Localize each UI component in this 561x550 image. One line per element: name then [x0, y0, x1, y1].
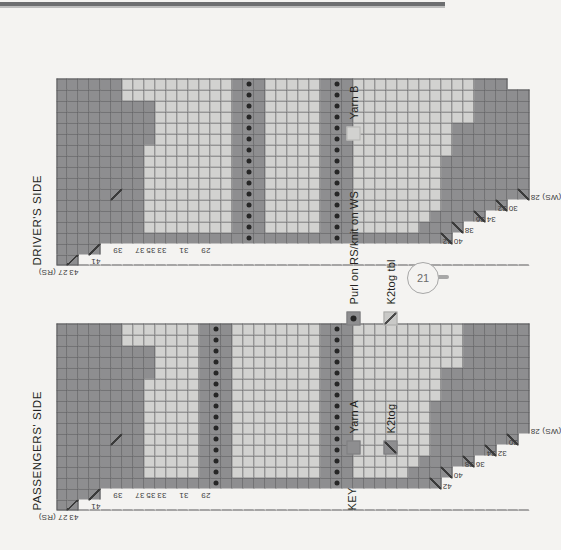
chart-cell: [276, 433, 287, 444]
chart-cell: [111, 133, 122, 144]
chart-cell: [254, 177, 265, 188]
chart-row: [386, 78, 397, 265]
chart-cell: [243, 433, 254, 444]
chart-cell: [276, 488, 287, 499]
chart-cell: [496, 389, 507, 400]
chart-cell: [56, 232, 67, 243]
chart-cell: [243, 78, 254, 89]
chart-cell: [56, 378, 67, 389]
chart-cell: [177, 323, 188, 334]
chart-cell: [419, 499, 430, 510]
chart-cell: [276, 144, 287, 155]
chart-cell: [298, 466, 309, 477]
chart-cell: [485, 499, 496, 510]
chart-cell: [364, 166, 375, 177]
chart-cell: [265, 334, 276, 345]
chart-cell: [287, 334, 298, 345]
chart-cell: [276, 400, 287, 411]
chart-cell: [133, 444, 144, 455]
chart-cell: [166, 389, 177, 400]
chart-cell: [243, 188, 254, 199]
chart-cell: [166, 433, 177, 444]
chart-cell: [331, 433, 342, 444]
chart-cell: [364, 221, 375, 232]
chart-cell: [331, 389, 342, 400]
chart-cell: [364, 488, 375, 499]
chart-cell: [331, 455, 342, 466]
chart-cell: [320, 111, 331, 122]
chart-cell: [144, 444, 155, 455]
chart-cell: [463, 378, 474, 389]
row-number-label: 39: [113, 490, 122, 499]
chart-cell: [452, 144, 463, 155]
chart-cell: [199, 100, 210, 111]
chart-cell: [287, 477, 298, 488]
chart-cell: [122, 254, 133, 265]
page-number-badge: 21: [407, 262, 437, 292]
chart-cell: [518, 356, 529, 367]
chart-cell: [144, 422, 155, 433]
chart-cell: [67, 199, 78, 210]
chart-cell: [166, 323, 177, 334]
chart-cell: [89, 444, 100, 455]
chart-cell: [331, 111, 342, 122]
chart-cell: [254, 100, 265, 111]
chart-cell: [463, 400, 474, 411]
chart-cell: [89, 188, 100, 199]
chart-cell: [166, 155, 177, 166]
chart-cell: [386, 199, 397, 210]
chart-cell: [331, 466, 342, 477]
chart-cell: [397, 144, 408, 155]
chart-cell: [265, 400, 276, 411]
chart-cell: [419, 422, 430, 433]
row-number-label: 43: [69, 512, 78, 521]
chart-cell: [265, 466, 276, 477]
chart-cell: [265, 433, 276, 444]
chart-cell: [188, 400, 199, 411]
chart-cell: [408, 243, 419, 254]
chart-cell: [441, 177, 452, 188]
chart-cell: [177, 367, 188, 378]
chart-cell: [441, 444, 452, 455]
chart-cell: [452, 323, 463, 334]
chart-cell: [254, 345, 265, 356]
chart-row: [364, 78, 375, 265]
row-number-label: 35: [146, 490, 155, 499]
chart-cell: [133, 254, 144, 265]
chart-cell: [56, 243, 67, 254]
chart-cell: [364, 177, 375, 188]
chart-cell: [320, 166, 331, 177]
chart-row: [144, 78, 155, 265]
chart-cell: [463, 254, 474, 265]
chart-cell: [254, 155, 265, 166]
chart-row: [298, 323, 309, 510]
chart-cell: [100, 89, 111, 100]
chart-cell: [309, 477, 320, 488]
chart-cell: [463, 89, 474, 100]
chart-cell: [331, 477, 342, 488]
chart-cell: [89, 221, 100, 232]
chart-cell: [100, 466, 111, 477]
chart-cell: [89, 78, 100, 89]
chart-cell: [188, 444, 199, 455]
chart-cell: [507, 477, 518, 488]
chart-cell: [254, 122, 265, 133]
chart-cell: [199, 477, 210, 488]
chart-cell: [199, 378, 210, 389]
chart-cell: [386, 389, 397, 400]
chart-cell: [441, 144, 452, 155]
chart-cell: [254, 400, 265, 411]
chart-row: [364, 323, 375, 510]
chart-cell: [375, 232, 386, 243]
chart-cell: [199, 422, 210, 433]
chart-cell: [89, 100, 100, 111]
chart-row: [265, 323, 276, 510]
chart-grid-passengers[interactable]: [56, 323, 529, 510]
chart-cell: [408, 477, 419, 488]
chart-cell: [441, 378, 452, 389]
chart-cell: [342, 378, 353, 389]
chart-row: [111, 323, 122, 510]
chart-cell: [155, 378, 166, 389]
chart-cell: [452, 210, 463, 221]
chart-cell: [342, 389, 353, 400]
